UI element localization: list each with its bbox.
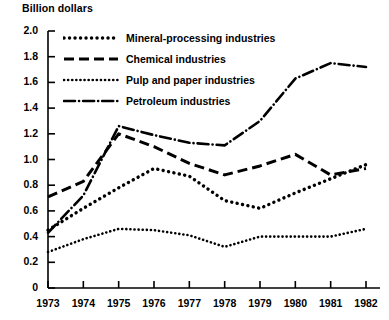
legend-label: Pulp and paper industries xyxy=(126,74,255,86)
x-tick-label: 1980 xyxy=(275,297,315,309)
y-tick-label: 2.0 xyxy=(12,24,38,36)
x-tick-label: 1976 xyxy=(134,297,174,309)
legend-swatch xyxy=(63,95,119,107)
legend-swatch xyxy=(63,32,119,44)
y-tick-label: 0.2 xyxy=(12,255,38,267)
x-tick-label: 1975 xyxy=(99,297,139,309)
legend-item: Pulp and paper industries xyxy=(63,71,255,89)
y-tick-label: 1.8 xyxy=(12,50,38,62)
legend-label: Chemical industries xyxy=(126,53,226,65)
legend-swatch xyxy=(63,53,119,65)
legend-label: Mineral-processing industries xyxy=(126,32,275,44)
legend-item: Mineral-processing industries xyxy=(63,29,275,47)
x-axis-ticks xyxy=(48,281,366,288)
x-tick-label: 1974 xyxy=(63,297,103,309)
chart-container: Billion dollars 00.20.40.60.81.01.21.41.… xyxy=(0,0,389,320)
x-tick-label: 1981 xyxy=(311,297,351,309)
y-tick-label: 0.6 xyxy=(12,204,38,216)
series-line xyxy=(48,165,366,231)
x-tick-label: 1973 xyxy=(28,297,68,309)
y-tick-label: 1.4 xyxy=(12,101,38,113)
legend-swatch xyxy=(63,74,119,86)
legend-label: Petroleum industries xyxy=(126,95,230,107)
legend-item: Petroleum industries xyxy=(63,92,230,110)
series-line xyxy=(48,229,366,252)
y-tick-label: 0 xyxy=(12,281,38,293)
y-tick-label: 0.8 xyxy=(12,178,38,190)
chart-plot-area xyxy=(0,0,389,320)
y-tick-label: 0.4 xyxy=(12,230,38,242)
x-tick-label: 1978 xyxy=(205,297,245,309)
x-tick-label: 1982 xyxy=(346,297,386,309)
x-tick-label: 1979 xyxy=(240,297,280,309)
y-tick-label: 1.0 xyxy=(12,153,38,165)
y-tick-label: 1.6 xyxy=(12,75,38,87)
y-axis-title: Billion dollars xyxy=(22,2,93,14)
x-tick-label: 1977 xyxy=(169,297,209,309)
y-tick-label: 1.2 xyxy=(12,127,38,139)
legend-item: Chemical industries xyxy=(63,50,226,68)
